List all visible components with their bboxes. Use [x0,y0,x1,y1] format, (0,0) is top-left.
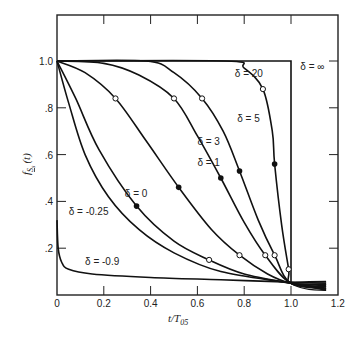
curve-label: δ = -0.9 [85,256,120,267]
curve-label: δ = 1 [197,157,220,168]
curve-label: δ = -0.25 [69,206,109,217]
open-marker [237,253,242,258]
x-tick-label: 0.2 [97,298,111,309]
open-marker [171,96,176,101]
axis-ticks [57,15,338,295]
x-tick-label: 1.0 [284,298,298,309]
filled-marker [134,203,140,209]
filled-marker [237,168,243,174]
axis-tick-labels: 00.20.40.60.81.01.2.2.4.6.81.0 [39,56,345,309]
chart: 00.20.40.60.81.01.2.2.4.6.81.0 δ = ∞δ = … [0,0,362,342]
open-marker [207,257,212,262]
curve-label: δ = 5 [237,113,260,124]
x-tick-label: 0.8 [237,298,251,309]
filled-marker [176,185,182,191]
y-tick-label: .8 [45,103,54,114]
curve-label: δ = 3 [197,136,220,147]
curve-label: δ = 20 [235,68,264,79]
open-marker [113,96,118,101]
svg-text:fSs(t): fSs(t) [20,153,36,175]
open-marker [260,86,265,91]
filled-marker [272,161,278,167]
y-tick-label: .2 [45,243,54,254]
x-axis-title: t/T05 [168,312,188,327]
open-marker [272,253,277,258]
y-tick-label: 1.0 [39,56,53,67]
curve-label: δ = 0 [125,188,148,199]
x-tick-label: 1.2 [331,298,345,309]
filled-marker [218,175,224,181]
curve-label: δ = ∞ [300,61,324,72]
y-tick-label: .4 [45,196,54,207]
markers [113,86,291,271]
y-tick-label: .6 [45,150,54,161]
open-marker [263,253,268,258]
x-tick-label: 0 [54,298,60,309]
x-tick-label: 0.4 [144,298,158,309]
y-axis-title: fSs(t) [20,153,36,175]
open-marker [286,267,291,272]
x-tick-label: 0.6 [190,298,204,309]
plot-frame [57,15,338,295]
curve-0 [57,61,291,283]
open-marker [199,96,204,101]
